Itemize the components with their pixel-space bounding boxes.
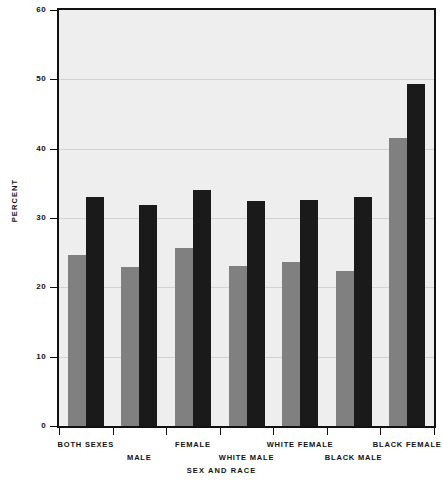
bar [121, 267, 139, 426]
x-axis-category-label: Male [89, 453, 189, 462]
x-axis-tick [113, 428, 114, 435]
x-axis-category-label: Black Male [304, 453, 404, 462]
y-axis-tick-label: 40 [16, 144, 46, 153]
bar [175, 248, 193, 426]
x-axis-tick [380, 428, 381, 435]
bar [68, 255, 86, 426]
y-axis-tick [50, 218, 57, 219]
bar [193, 190, 211, 426]
y-axis-tick-label: 30 [16, 213, 46, 222]
bar [407, 84, 425, 426]
x-axis-tick [166, 428, 167, 435]
x-axis-category-label: White Female [250, 440, 350, 449]
x-axis-tick [273, 428, 274, 435]
bar [139, 205, 157, 426]
y-axis-tick [50, 149, 57, 150]
bar [282, 262, 300, 426]
y-axis-tick [50, 10, 57, 11]
x-axis-category-label: Both Sexes [36, 440, 136, 449]
x-axis-tick [59, 428, 60, 435]
x-axis-tick [434, 428, 435, 435]
y-axis-tick [50, 426, 57, 427]
gridline [59, 149, 434, 150]
x-axis-title: Sex and Race [0, 466, 443, 475]
y-axis-tick-label: 50 [16, 74, 46, 83]
bar [336, 271, 354, 426]
x-axis-tick [220, 428, 221, 435]
bar [229, 266, 247, 426]
bar [247, 201, 265, 426]
bar [86, 197, 104, 426]
x-axis-category-label: Female [143, 440, 243, 449]
y-axis-tick-label: 60 [16, 5, 46, 14]
y-axis-tick [50, 357, 57, 358]
y-axis-tick-label: 20 [16, 282, 46, 291]
y-axis-title: Percent [10, 166, 19, 236]
plot-inner [59, 10, 434, 426]
x-axis-category-label: Black Female [357, 440, 443, 449]
bar [300, 200, 318, 426]
bar [389, 138, 407, 426]
y-axis-tick [50, 79, 57, 80]
x-axis-tick [327, 428, 328, 435]
x-axis-category-label: White Male [197, 453, 297, 462]
plot-area [57, 8, 436, 428]
bar-chart: Percent 0102030405060 Both SexesMaleFema… [0, 0, 443, 484]
y-axis-tick [50, 287, 57, 288]
y-axis-tick-label: 0 [16, 421, 46, 430]
y-axis-tick-label: 10 [16, 352, 46, 361]
bar [354, 197, 372, 426]
gridline [59, 79, 434, 80]
